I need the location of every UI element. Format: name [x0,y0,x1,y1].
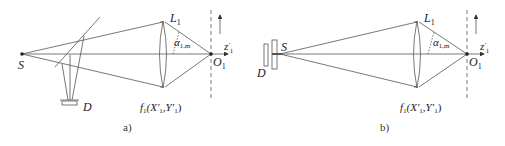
label-source-a: S [18,58,24,72]
beam-splitter [55,17,100,67]
ray-upper [280,22,417,54]
detector-d [264,44,268,66]
label-focus-b: O1 [469,55,482,71]
lens-l1 [414,21,421,88]
label-function-b: f1(X′1,Y′1) [400,101,442,115]
source-point-a [20,52,24,56]
label-axis-b: z′1 [479,40,490,55]
label-axis-a: z′1 [223,40,234,55]
ray-to-detector-3 [62,64,68,100]
label-angle-b: α1,m [433,36,450,50]
label-lens-b: L1 [423,11,435,27]
ray-lower-converge [419,54,467,87]
label-detector-b: D [256,66,266,80]
ray-lower [280,54,417,87]
label-source-b: S [281,40,287,54]
caption-b: b) [380,121,390,134]
optical-diagram: S L1 α1,m z′1 O1 D f1(X′1,Y′1) a) S D L1… [0,0,505,146]
label-function-a: f1(X′1,Y′1) [140,101,182,115]
label-lens-a: L1 [169,11,181,27]
detector-d [62,101,77,105]
label-detector-a: D [82,100,92,114]
ray-upper [22,22,163,54]
caption-a: a) [123,121,132,134]
ray-lower-converge [165,54,211,87]
panel-a [22,10,228,105]
ray-lower [22,54,163,87]
panel-b [264,10,484,98]
label-focus-a: O1 [213,55,226,71]
lens-l1 [160,21,167,88]
